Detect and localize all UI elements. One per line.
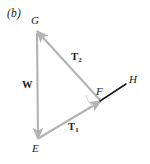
vector-label-w: W — [22, 80, 33, 91]
vector-label-t2-text: T — [71, 51, 78, 62]
vertex-label-h: H — [129, 74, 137, 85]
panel-label: (b) — [7, 8, 21, 20]
vector-t2-arrow — [37, 31, 100, 100]
segment-fh — [100, 84, 126, 101]
vector-label-t1: T1 — [68, 122, 79, 134]
vector-label-t1-subscript: 1 — [75, 126, 79, 134]
angle-arc-at-f — [86, 95, 93, 106]
vertex-label-e: E — [32, 143, 39, 154]
vector-label-t2-subscript: 2 — [78, 56, 82, 64]
vector-label-w-text: W — [22, 79, 33, 90]
vertex-label-g: G — [31, 15, 39, 26]
vector-label-t2: T2 — [71, 52, 82, 64]
vector-label-t1-text: T — [68, 121, 75, 132]
vector-w-arrow — [37, 33, 38, 139]
figure-canvas: (b) G E F H W T1 T2 — [0, 0, 150, 164]
vertex-label-f: F — [96, 86, 103, 97]
